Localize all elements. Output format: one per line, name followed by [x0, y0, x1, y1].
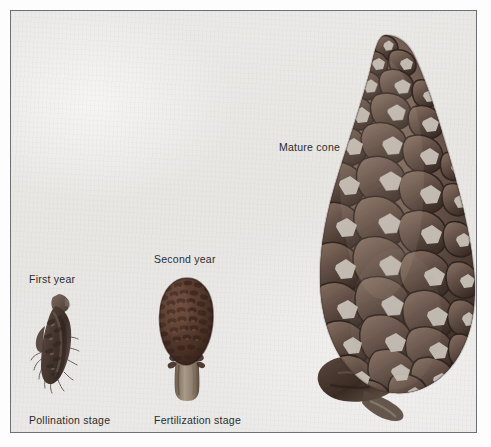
specimen-first-year-conelet	[29, 292, 95, 397]
label-fertilization-stage: Fertilization stage	[154, 415, 241, 426]
figure-plate: Mature cone Second year First year Polli…	[10, 10, 477, 433]
label-first-year: First year	[29, 274, 75, 285]
specimen-second-year-cone	[148, 273, 226, 403]
label-second-year: Second year	[154, 254, 216, 265]
specimen-mature-cone	[304, 29, 477, 424]
label-pollination-stage: Pollination stage	[29, 415, 110, 426]
label-mature-cone: Mature cone	[279, 142, 340, 153]
figure-root: Mature cone Second year First year Polli…	[0, 0, 491, 447]
